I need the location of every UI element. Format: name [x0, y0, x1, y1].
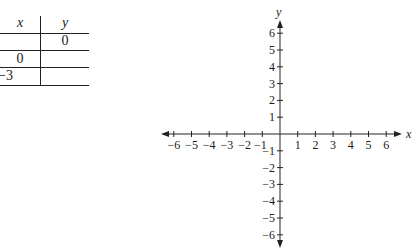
- x-tick-label: 3: [330, 138, 336, 152]
- x-axis-left-arrow-icon: [161, 131, 169, 137]
- coordinate-plane: −6−5−4−3−2−1123456 654321−1−2−3−4−5−6 x …: [0, 0, 416, 251]
- y-axis-label: y: [275, 5, 282, 19]
- x-tick-label: −3: [221, 138, 234, 152]
- y-tick-label: 6: [269, 26, 275, 40]
- y-tick-label: 3: [269, 77, 275, 91]
- y-tick-label: −6: [262, 228, 275, 242]
- x-tick-label: 5: [366, 138, 372, 152]
- x-tick-label: 2: [312, 138, 318, 152]
- x-axis-right-arrow-icon: [394, 131, 402, 137]
- y-tick-label: −2: [262, 161, 275, 175]
- x-axis-label: x: [405, 127, 412, 141]
- y-axis-up-arrow-icon: [277, 20, 283, 28]
- x-tick-label: −6: [167, 138, 180, 152]
- x-tick-label: −5: [185, 138, 198, 152]
- x-tick-label: 6: [383, 138, 389, 152]
- y-tick-label: −3: [262, 177, 275, 191]
- y-axis-down-arrow-icon: [277, 240, 283, 248]
- y-tick-label: −5: [262, 211, 275, 225]
- y-tick-label: 1: [269, 110, 275, 124]
- x-tick-label: −2: [238, 138, 251, 152]
- x-tick-label: −4: [203, 138, 216, 152]
- y-tick-label: 4: [269, 60, 275, 74]
- y-tick-label: −4: [262, 194, 275, 208]
- y-tick-label: 2: [269, 93, 275, 107]
- x-tick-label: 1: [295, 138, 301, 152]
- x-tick-label: 4: [348, 138, 354, 152]
- y-tick-label: −1: [262, 144, 275, 158]
- y-tick-label: 5: [269, 43, 275, 57]
